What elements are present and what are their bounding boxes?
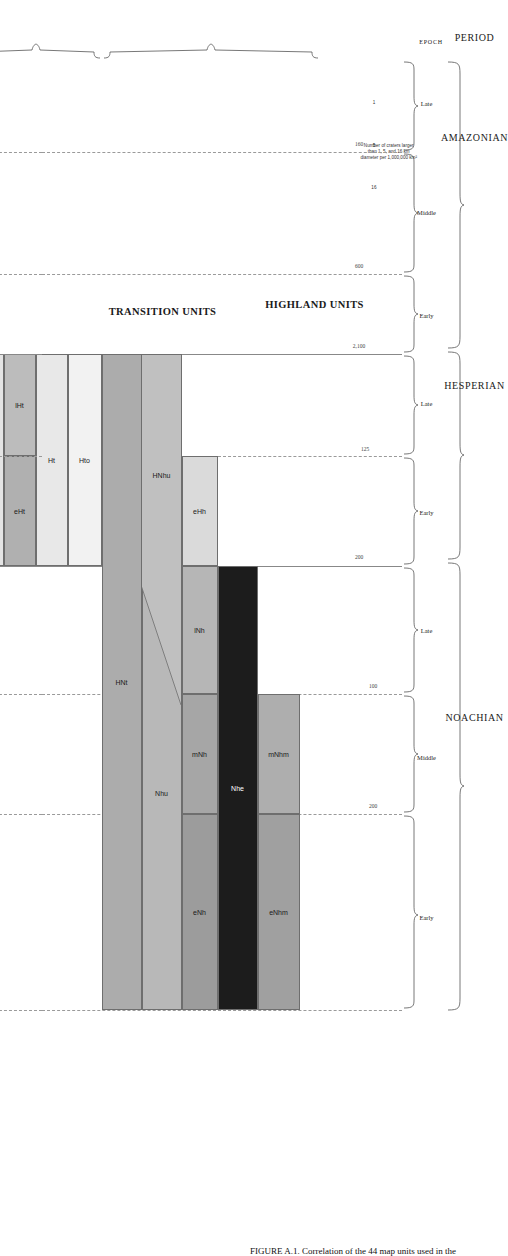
unit-label-Ht: Ht <box>49 457 56 464</box>
unit-label-Nhu: Nhu <box>156 790 169 797</box>
period-axis-header: PERIOD <box>455 32 495 43</box>
boundary-line-lower-end <box>0 1010 42 1011</box>
category-brace-group <box>0 44 508 64</box>
figure-caption: FIGURE A.1. Correlation of the 44 map un… <box>250 1246 456 1256</box>
period-brace-group <box>446 60 464 1210</box>
category-title-transition: TRANSITION UNITS <box>75 306 250 317</box>
unit-label-eHt: eHt <box>15 508 26 515</box>
boundary-line-lower-200b <box>0 814 42 815</box>
epoch-label-late-noachian: Late <box>421 627 433 634</box>
epoch-label-early-amazonian: Early <box>419 312 433 319</box>
unit-box-HNt[interactable]: HNt <box>102 354 142 1010</box>
unit-box-mNh[interactable]: mNh <box>182 694 218 814</box>
unit-box-eHt[interactable]: eHt <box>4 456 36 566</box>
boundary-value-100: 100 <box>369 683 377 689</box>
boundary-line-lower-160 <box>0 152 42 153</box>
unit-label-eNhm: eNhm <box>270 909 289 916</box>
unit-label-lHt: lHt <box>16 402 25 409</box>
unit-label-Nhe: Nhe <box>232 785 245 792</box>
boundary-line-lower-2100 <box>0 354 42 355</box>
boundary-line-lower-100 <box>0 694 42 695</box>
unit-label-eHh: eHh <box>194 508 207 515</box>
epoch-label-early-hesperian: Early <box>419 509 433 516</box>
boundary-line-600 <box>42 274 402 275</box>
unit-label-mNhm: mNhm <box>269 751 290 758</box>
boundary-line-lower-125 <box>0 456 42 457</box>
unit-box-eNhm[interactable]: eNhm <box>258 814 300 1010</box>
unit-label-eNh: eNh <box>194 909 207 916</box>
crater-tick-16: 16 <box>368 185 380 191</box>
category-brace <box>0 44 100 58</box>
unit-box-Nhu[interactable]: HNhu Nhu <box>142 354 182 1010</box>
unit-box-Htu[interactable]: Htu <box>0 354 4 566</box>
boundary-line-end <box>42 1010 402 1011</box>
period-label-noachian: NOACHIAN <box>445 712 503 723</box>
unit-label-HNt: HNt <box>116 679 128 686</box>
crater-tick-1: 1 <box>368 100 380 106</box>
unit-box-eNh[interactable]: eNh <box>182 814 218 1010</box>
unit-box-mNhm[interactable]: mNhm <box>258 694 300 814</box>
boundary-line-lower-600 <box>0 274 42 275</box>
epoch-brace-group <box>402 60 418 1210</box>
boundary-value-200b: 200 <box>369 803 377 809</box>
epoch-label-late-hesperian: Late <box>421 400 433 407</box>
epoch-label-middle-amazonian: Middle <box>417 209 436 216</box>
boundary-value-2100: 2,100 <box>353 343 365 349</box>
period-label-amazonian: AMAZONIAN <box>441 132 508 143</box>
boundary-value-125: 125 <box>361 446 369 452</box>
unit-box-eHh[interactable]: eHh <box>182 456 218 566</box>
period-label-hesperian: HESPERIAN <box>444 380 504 391</box>
unit-box-lHt[interactable]: lHt <box>4 354 36 456</box>
unit-label-mNh: mNh <box>193 751 208 758</box>
boundary-value-160: 160 <box>355 141 363 147</box>
unit-label-Hto: Hto <box>80 457 91 464</box>
unit-box-Ht[interactable]: Ht <box>36 354 68 566</box>
crater-tick-5: 5 <box>368 143 380 149</box>
unit-label-HNhu: HNhu <box>153 472 171 479</box>
hnhu-nhu-divider <box>141 355 181 1011</box>
unit-label-lNh: lNh <box>195 626 206 633</box>
category-title-highland: HIGHLAND UNITS <box>235 299 395 310</box>
unit-box-lNh[interactable]: lNh <box>182 566 218 694</box>
epoch-label-late-amazonian: Late <box>421 100 433 107</box>
epoch-label-middle-noachian: Middle <box>417 754 436 761</box>
boundary-value-200a: 200 <box>355 554 363 560</box>
crater-legend-line3: diameter per 1,000,000 km² <box>329 155 449 161</box>
unit-box-Nhe[interactable]: Nhe <box>218 566 258 1010</box>
boundary-value-600: 600 <box>355 263 363 269</box>
unit-box-Hto[interactable]: Hto <box>68 354 102 566</box>
epoch-label-early-noachian: Early <box>419 914 433 921</box>
category-brace <box>104 44 318 58</box>
boundary-line-lower-200a <box>0 566 42 567</box>
boundary-line-160 <box>42 152 402 153</box>
